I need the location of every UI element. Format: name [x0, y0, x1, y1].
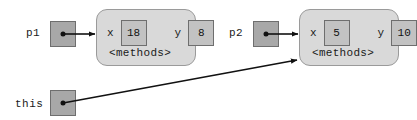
object-1-fields: x 18 y 8 — [107, 20, 214, 46]
variable-label-this: this — [15, 99, 43, 110]
field-name-y-object-1: y — [175, 28, 182, 39]
field-value-y-object-1[interactable]: 8 — [188, 20, 214, 46]
field-value-x-object-2[interactable]: 5 — [324, 20, 350, 46]
arrow-this-to-object-2 — [63, 60, 297, 103]
object-2-fields: x 5 y 10 — [310, 20, 417, 46]
field-name-y-object-2: y — [378, 28, 385, 39]
pointer-cell-p1[interactable] — [50, 21, 76, 47]
object-box-1[interactable]: x 18 y 8 <methods> — [96, 9, 196, 66]
pointer-cell-this[interactable] — [50, 90, 76, 116]
methods-label-object-2: <methods> — [312, 48, 374, 59]
variable-label-p1: p1 — [26, 28, 40, 39]
object-box-2[interactable]: x 5 y 10 <methods> — [299, 9, 399, 66]
field-name-x-object-2: x — [310, 28, 317, 39]
pointer-cell-p2[interactable] — [253, 21, 279, 47]
field-value-x-object-1[interactable]: 18 — [121, 20, 147, 46]
methods-label-object-1: <methods> — [109, 48, 171, 59]
variable-label-p2: p2 — [229, 28, 243, 39]
field-name-x-object-1: x — [107, 28, 114, 39]
field-value-y-object-2[interactable]: 10 — [391, 20, 417, 46]
